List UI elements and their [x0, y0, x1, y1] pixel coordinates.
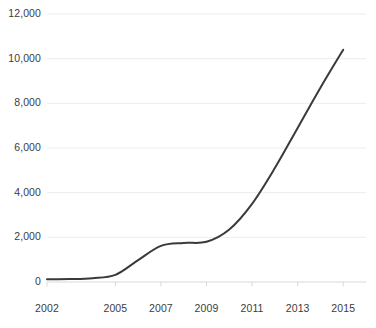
- data-series-line: [47, 50, 343, 280]
- x-tick-label: 2013: [274, 302, 322, 314]
- gridlines-group: [47, 14, 366, 237]
- y-tick-label: 0: [35, 275, 41, 287]
- x-tick-label: 2015: [319, 302, 367, 314]
- x-tickmarks-group: [47, 282, 343, 287]
- y-tick-label: 6,000: [14, 141, 41, 153]
- y-tick-label: 10,000: [8, 52, 41, 64]
- x-tick-label: 2002: [23, 302, 71, 314]
- y-tick-label: 12,000: [8, 7, 41, 19]
- line-chart: 02,0004,0006,0008,00010,00012,000 200220…: [0, 0, 376, 328]
- x-tick-label: 2009: [183, 302, 231, 314]
- x-tick-label: 2007: [137, 302, 185, 314]
- x-tick-label: 2011: [228, 302, 276, 314]
- y-tick-label: 4,000: [14, 186, 41, 198]
- chart-canvas: [0, 0, 376, 328]
- x-tick-label: 2005: [91, 302, 139, 314]
- y-tick-label: 2,000: [14, 230, 41, 242]
- y-tick-label: 8,000: [14, 96, 41, 108]
